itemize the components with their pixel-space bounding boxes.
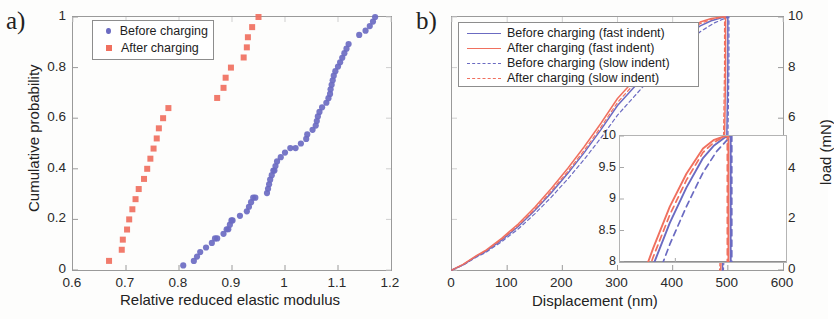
inset-ytick-label: 9.5 [582,160,616,173]
panel-b-inset [619,135,787,263]
xtick-label: 0.6 [63,276,82,290]
ytick-label: 0 [788,262,796,276]
legend-item-after-slow: After charging (slow indent) [463,71,694,86]
inset-ytick-label: 8.5 [582,223,616,236]
legend-label: Before charging (fast indent) [507,27,665,40]
panel-b-yaxis-title: load (mN) [818,119,833,185]
xtick-label: 200 [550,276,573,290]
ytick-label: 6 [788,110,796,124]
panel-b-label: b) [416,8,437,33]
ytick-label: 1 [44,9,66,23]
solid-line-marker-icon [467,33,501,34]
legend-label: After charging (slow indent) [507,72,659,85]
legend-item-before-fast: Before charging (fast indent) [463,26,694,41]
panel-b: b) 0246810 0100200300400500600 Displacem… [414,0,828,319]
ytick-label: 2 [788,212,796,226]
solid-line-marker-icon [467,48,501,49]
dashed-line-marker-icon [467,78,501,79]
panel-b-inset-canvas [620,136,786,262]
xtick-label: 300 [605,276,628,290]
legend-item-after-charging: After charging [98,42,208,55]
xtick-label: 1.1 [328,276,347,290]
legend-item-after-fast: After charging (fast indent) [463,41,694,56]
panel-a-legend: Before charging After charging [92,20,214,60]
xtick-label: 500 [716,276,739,290]
xtick-label: 100 [495,276,518,290]
legend-label: After charging [121,42,199,55]
panel-a-label: a) [6,8,25,33]
square-marker-icon [106,45,112,51]
panel-b-legend: Before charging (fast indent) After char… [458,22,699,87]
xtick-label: 400 [660,276,683,290]
xtick-label: 0.8 [169,276,188,290]
ytick-label: 8 [788,60,796,74]
circle-marker-icon [106,28,111,34]
panel-a: a) 00.20.40.60.81 0.60.70.80.911.11.2 Re… [0,0,414,319]
dashed-line-marker-icon [467,63,501,64]
legend-label: Before charging [120,25,208,38]
legend-label: After charging (fast indent) [507,42,654,55]
panel-a-xaxis-title: Relative reduced elastic modulus [120,292,340,307]
panel-a-yaxis-title: Cumulative probability [26,64,41,212]
legend-item-before-charging: Before charging [98,25,208,38]
ytick-label: 4 [788,161,796,175]
legend-item-before-slow: Before charging (slow indent) [463,56,694,71]
ytick-label: 10 [788,9,803,23]
xtick-label: 0 [447,276,455,290]
inset-ytick-label: 9 [582,192,616,205]
ytick-label: 0 [44,262,66,276]
xtick-label: 0.9 [222,276,241,290]
legend-label: Before charging (slow indent) [507,57,670,70]
xtick-label: 0.7 [116,276,135,290]
ytick-label: 0.4 [44,161,66,175]
inset-ytick-label: 10 [582,129,616,142]
xtick-label: 1.2 [381,276,400,290]
xtick-label: 1 [280,276,288,290]
ytick-label: 0.2 [44,212,66,226]
xtick-label: 600 [771,276,794,290]
ytick-label: 0.6 [44,110,66,124]
inset-ytick-label: 8 [582,255,616,268]
panel-b-xaxis-title: Displacement (nm) [532,293,658,308]
ytick-label: 0.8 [44,60,66,74]
